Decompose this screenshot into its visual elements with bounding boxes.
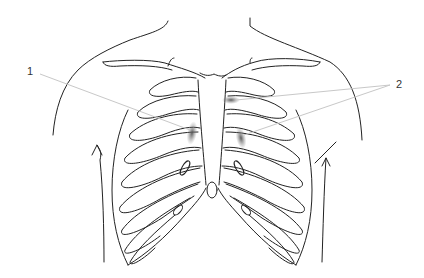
- left-clavicle: [103, 60, 205, 78]
- right-clavicle-lower: [252, 62, 320, 70]
- left-ribs: [112, 77, 206, 265]
- jugular-notch: [200, 73, 226, 76]
- label-1: 1: [27, 65, 33, 77]
- right-shoulder-outline: [250, 18, 362, 140]
- right-acromion-tip: [250, 58, 252, 63]
- label-2: 2: [396, 78, 402, 90]
- marker-point-1: [185, 120, 199, 145]
- leader-line-1: [40, 74, 190, 130]
- ribcage-diagram: 1 2: [0, 0, 424, 278]
- right-ribs: [218, 77, 312, 265]
- left-arm-outline: [97, 145, 104, 262]
- sternum-left-edge: [198, 80, 206, 185]
- ribcage-drawing: [0, 0, 424, 278]
- right-clavicle: [222, 59, 320, 78]
- left-clavicle-lower: [103, 62, 172, 70]
- sternum-right-edge: [219, 80, 226, 185]
- xiphoid-process: [207, 182, 217, 198]
- right-arm-outline: [322, 158, 326, 262]
